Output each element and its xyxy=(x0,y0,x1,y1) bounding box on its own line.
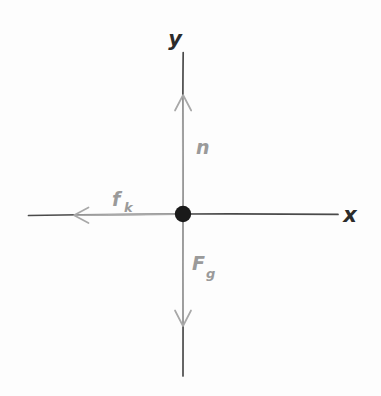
free-body-diagram-canvas: y x n f k F g xyxy=(0,0,381,396)
diagram-svg: y x n f k F g xyxy=(0,0,381,396)
labels-group: y x n f k F g xyxy=(112,27,358,281)
gravitational-force-subscript: g xyxy=(206,266,215,281)
x-axis-label: x xyxy=(342,203,358,227)
gravitational-force-label: F xyxy=(192,252,205,274)
normal-force-vector xyxy=(175,95,191,212)
origin-dot xyxy=(175,206,191,222)
gravitational-force-vector xyxy=(175,217,191,326)
y-axis-label: y xyxy=(168,27,183,51)
normal-force-label: n xyxy=(196,136,210,158)
kinetic-friction-label: f xyxy=(112,188,123,210)
kinetic-friction-subscript: k xyxy=(124,200,134,215)
